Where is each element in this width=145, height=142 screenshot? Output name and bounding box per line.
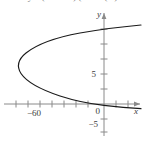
coordinate-plane-plot: −60 5 −5 0 x y: [0, 0, 145, 142]
graph-figure: y = ( − 4 + 9)/( − 8 x ( 5): [0, 0, 145, 142]
y-axis-arrow-icon: [102, 13, 107, 19]
x-tick-label-neg60: −60: [27, 108, 42, 118]
origin-label: 0: [96, 106, 101, 116]
x-axis-label: x: [133, 106, 138, 116]
y-tick-label-neg5: −5: [88, 119, 98, 129]
parabola-curve: [18, 25, 141, 109]
y-tick-label-5: 5: [92, 69, 97, 79]
y-axis-label: y: [96, 9, 101, 19]
